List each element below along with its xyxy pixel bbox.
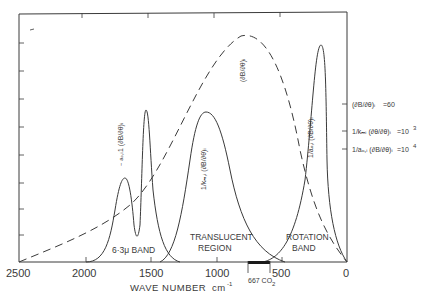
svg-text:4: 4 xyxy=(413,143,417,149)
plot-frame xyxy=(19,12,347,262)
svg-text:cm: cm xyxy=(212,282,226,293)
svg-text:1/kₘ,ᵢ (∂B/∂θ)ᵢ: 1/kₘ,ᵢ (∂B/∂θ)ᵢ xyxy=(200,148,208,190)
planck-derivative-curve xyxy=(19,35,347,262)
translucent-expression: 1/kₘ,ᵢ (∂B/∂θ)ᵢ xyxy=(200,148,208,190)
svg-text:3: 3 xyxy=(413,125,417,131)
svg-text:1/aₒ,ᵢ (∂B/∂θ)ᵢ: 1/aₒ,ᵢ (∂B/∂θ)ᵢ xyxy=(307,117,315,158)
svg-text:=10: =10 xyxy=(397,146,409,153)
svg-text:1000: 1000 xyxy=(205,267,229,279)
rotation-label-2: BAND xyxy=(292,243,316,253)
rotation-band-curve xyxy=(263,45,347,262)
translucent-label-2: REGION xyxy=(198,243,232,253)
svg-text:(∂B/∂θ)ᵢ: (∂B/∂θ)ᵢ xyxy=(352,101,375,109)
svg-text:=60: =60 xyxy=(383,101,395,108)
svg-text:667 CO: 667 CO xyxy=(248,277,273,284)
band-63-curve xyxy=(86,110,180,262)
svg-text:2500: 2500 xyxy=(6,267,30,279)
svg-text:1/aₒ,ᵢ (∂B/∂θ)ᵢ: 1/aₒ,ᵢ (∂B/∂θ)ᵢ xyxy=(352,146,393,154)
svg-text:(∂B/∂θ)ᵢ: (∂B/∂θ)ᵢ xyxy=(239,59,247,82)
rotation-label-1: ROTATION xyxy=(286,232,329,242)
x-axis-title: WAVE NUMBER cm -1 667 CO 2 xyxy=(130,277,276,293)
svg-text:2: 2 xyxy=(272,281,276,287)
translucent-label-1: TRANSLUCENT xyxy=(190,232,253,242)
x-tick-labels: 2500 2000 1500 1000 500 0 xyxy=(6,267,349,279)
svg-text:0: 0 xyxy=(343,267,349,279)
band-63-label: 6·3μ BAND xyxy=(112,245,155,255)
svg-text:1 (∂B/∂θ)ᵢ: 1 (∂B/∂θ)ᵢ xyxy=(117,123,125,152)
scale-legend: (∂B/∂θ)ᵢ =60 1/kₘᵢ (∂θ/∂θ)ᵢ =10 3 1/aₒ,ᵢ… xyxy=(352,101,417,154)
planck-expression: (∂B/∂θ)ᵢ xyxy=(239,59,247,82)
svg-text:=10: =10 xyxy=(397,128,409,135)
chart: 2500 2000 1500 1000 500 0 WAVE NUMBER cm… xyxy=(0,0,424,297)
svg-text:2000: 2000 xyxy=(72,267,96,279)
svg-text:WAVE NUMBER: WAVE NUMBER xyxy=(130,282,206,293)
svg-text:-1: -1 xyxy=(227,281,233,287)
co2-667-marker xyxy=(248,261,270,273)
svg-text:500: 500 xyxy=(272,267,290,279)
band-63-expression: 1 (∂B/∂θ)ᵢ − aₒ,ᵢ xyxy=(117,123,125,166)
svg-text:− aₒ,ᵢ: − aₒ,ᵢ xyxy=(118,153,124,166)
left-ticks xyxy=(19,29,34,235)
rotation-band-expression: 1/aₒ,ᵢ (∂B/∂θ)ᵢ xyxy=(307,117,315,158)
svg-text:1500: 1500 xyxy=(139,267,163,279)
svg-text:1/kₘᵢ (∂θ/∂θ)ᵢ: 1/kₘᵢ (∂θ/∂θ)ᵢ xyxy=(352,128,391,136)
right-ticks xyxy=(342,104,347,149)
